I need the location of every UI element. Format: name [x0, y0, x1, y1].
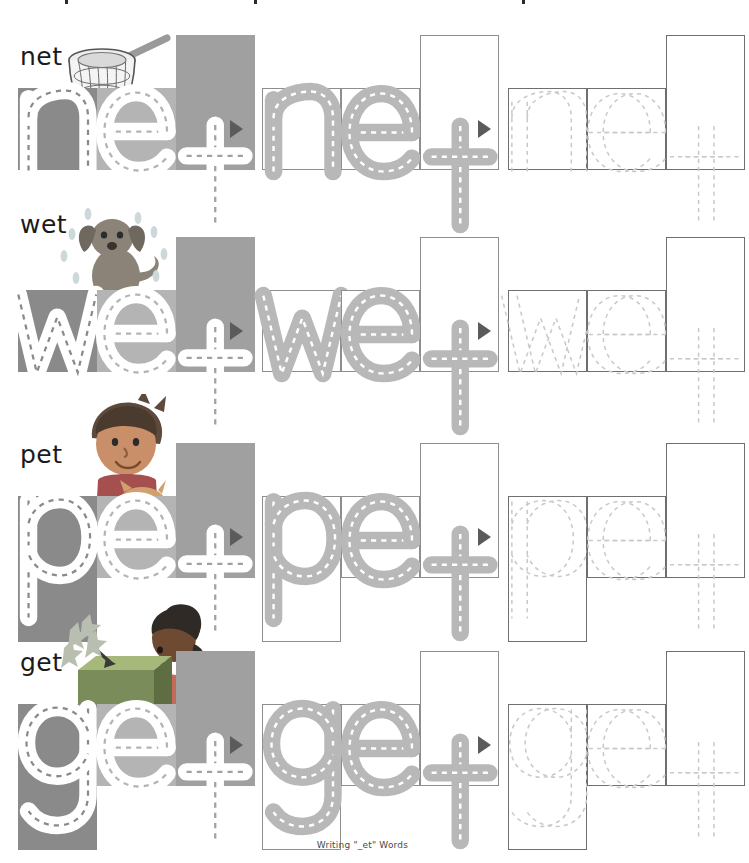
word-label-wet: wet — [20, 210, 67, 239]
letter-group-pet-blank-trace — [508, 496, 745, 578]
letter-box-t — [176, 237, 255, 372]
letter-box-e — [341, 290, 420, 372]
letter-group-get-traced-filled — [18, 704, 255, 786]
letter-box-t — [176, 651, 255, 786]
letter-group-wet-blank-trace — [508, 290, 745, 372]
letter-group-pet-traced-filled — [18, 496, 255, 578]
letter-box-g[interactable] — [508, 704, 587, 850]
word-label-pet: pet — [20, 440, 63, 469]
letter-group-net-blank-trace — [508, 88, 745, 170]
letter-box-e[interactable] — [587, 496, 666, 578]
letter-box-e[interactable] — [587, 290, 666, 372]
letter-box-n[interactable] — [508, 88, 587, 170]
step-arrow-icon — [230, 528, 243, 546]
letter-box-t — [420, 443, 499, 578]
step-arrow-icon — [230, 736, 243, 754]
letter-box-e[interactable] — [587, 704, 666, 786]
letter-group-net-traced-filled — [18, 88, 255, 170]
letter-group-get-blank-trace — [508, 704, 745, 786]
step-arrow-icon — [478, 528, 491, 546]
letter-box-t[interactable] — [666, 651, 745, 786]
letter-box-w — [262, 290, 341, 372]
letter-box-t — [420, 237, 499, 372]
letter-box-g — [262, 704, 341, 850]
step-arrow-icon — [230, 120, 243, 138]
letter-group-net-outlined-guide — [262, 88, 499, 170]
letter-box-e — [341, 496, 420, 578]
letter-box-t — [420, 651, 499, 786]
letter-group-wet-traced-filled — [18, 290, 255, 372]
page-caption: Writing "_et" Words — [0, 840, 725, 850]
step-arrow-icon — [478, 322, 491, 340]
letter-box-t — [420, 35, 499, 170]
letter-box-t[interactable] — [666, 237, 745, 372]
crop-mark — [65, 0, 68, 4]
letter-box-t[interactable] — [666, 35, 745, 170]
letter-box-w[interactable] — [508, 290, 587, 372]
letter-group-get-outlined-guide — [262, 704, 499, 786]
letter-box-e — [341, 704, 420, 786]
letter-box-t — [176, 443, 255, 578]
word-label-get: get — [20, 648, 63, 677]
letter-box-n — [262, 88, 341, 170]
step-arrow-icon — [478, 736, 491, 754]
crop-mark — [522, 0, 525, 4]
step-arrow-icon — [478, 120, 491, 138]
letter-box-e — [341, 88, 420, 170]
crop-mark — [254, 0, 257, 4]
step-arrow-icon — [230, 322, 243, 340]
letter-group-pet-outlined-guide — [262, 496, 499, 578]
letter-box-t — [176, 35, 255, 170]
letter-group-wet-outlined-guide — [262, 290, 499, 372]
letter-box-e[interactable] — [587, 88, 666, 170]
word-row-get: get — [0, 600, 725, 863]
letter-box-t[interactable] — [666, 443, 745, 578]
